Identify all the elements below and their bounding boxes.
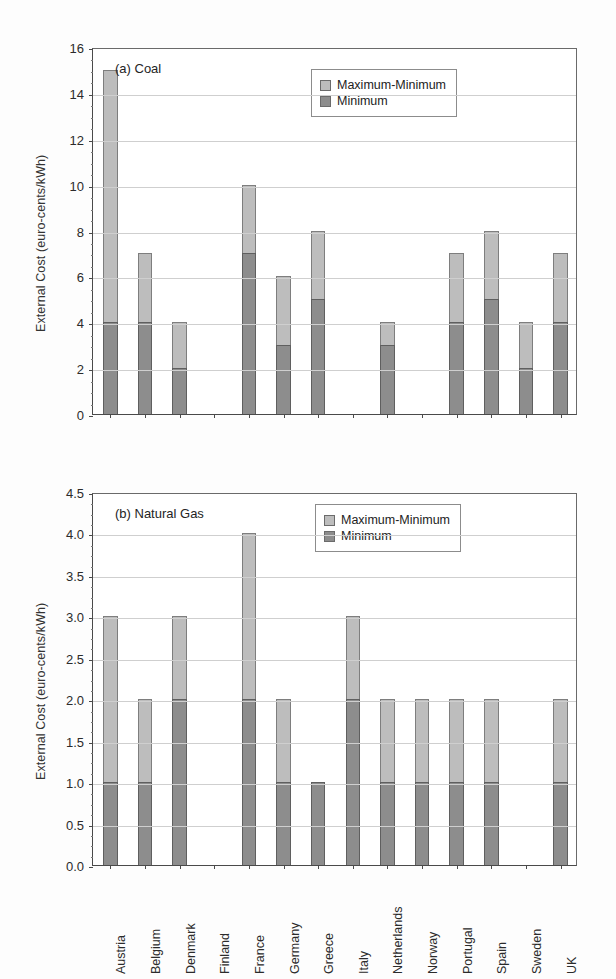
x-axis-label-norway: Norway — [426, 932, 440, 974]
bar-portugal — [449, 699, 464, 865]
x-axis-tick — [526, 865, 527, 869]
bar-segment-minimum — [242, 699, 257, 865]
bar-france — [242, 185, 257, 414]
legend-swatch-maximum-minimum-icon — [324, 515, 335, 526]
bar-segment-maximum-minimum — [380, 699, 395, 782]
bar-segment-minimum — [380, 345, 395, 414]
y-axis-tick — [89, 535, 93, 536]
y-axis-minor-tick — [91, 164, 94, 165]
bar-segment-maximum-minimum — [276, 276, 291, 345]
x-axis-tick — [110, 414, 111, 418]
x-axis-label-denmark: Denmark — [184, 923, 198, 974]
x-axis-tick — [180, 414, 181, 418]
bar-segment-maximum-minimum — [415, 699, 430, 782]
y-axis-minor-tick — [91, 567, 94, 568]
x-axis-tick — [318, 865, 319, 869]
x-axis-tick — [318, 414, 319, 418]
bar-segment-minimum — [449, 782, 464, 865]
y-axis-tick-labels-natural-gas: 0.00.51.01.52.02.53.03.54.04.5 — [50, 493, 84, 866]
bar-segment-minimum — [346, 699, 361, 865]
bar-greece — [311, 231, 326, 415]
bar-segment-maximum-minimum — [346, 616, 361, 699]
y-axis-tick-label: 1.0 — [66, 777, 84, 790]
legend-entry-minimum: Minimum — [320, 94, 446, 108]
x-axis-label-france: France — [253, 935, 267, 974]
y-axis-minor-tick — [91, 255, 94, 256]
bar-segment-maximum-minimum — [172, 616, 187, 699]
bar-spain — [484, 231, 499, 415]
gridline — [93, 577, 576, 578]
x-axis-label-austria: Austria — [114, 935, 128, 974]
y-axis-tick — [89, 701, 93, 702]
x-axis-label-portugal: Portugal — [461, 927, 475, 974]
bar-greece — [311, 782, 326, 865]
y-axis-tick-label: 2.0 — [66, 694, 84, 707]
x-axis-tick — [387, 414, 388, 418]
y-axis-minor-tick — [91, 504, 94, 505]
y-axis-tick-label: 6 — [77, 271, 84, 284]
y-axis-minor-tick — [91, 805, 94, 806]
gridline — [93, 826, 576, 827]
bar-segment-minimum — [103, 782, 118, 865]
y-axis-minor-tick — [91, 732, 94, 733]
bar-segment-minimum — [484, 299, 499, 414]
x-axis-tick — [249, 414, 250, 418]
gridline — [93, 660, 576, 661]
bar-denmark — [172, 322, 187, 414]
y-axis-tick — [89, 660, 93, 661]
x-axis-category-labels: AustriaBelgiumDenmarkFinlandFranceGerman… — [92, 874, 577, 979]
bar-segment-maximum-minimum — [449, 699, 464, 782]
gridline — [93, 233, 576, 234]
bar-france — [242, 533, 257, 865]
bar-segment-minimum — [380, 782, 395, 865]
x-axis-tick — [249, 865, 250, 869]
chart-panel-coal: External Cost (euro-cents/kWh) 024681012… — [0, 30, 616, 440]
bar-segment-maximum-minimum — [103, 70, 118, 322]
legend-label-minimum: Minimum — [337, 94, 388, 108]
y-axis-minor-tick — [91, 313, 94, 314]
y-axis-minor-tick — [91, 556, 94, 557]
x-axis-tick — [214, 865, 215, 869]
plot-area-natural-gas: (b) Natural Gas Maximum-Minimum Minimum — [92, 493, 577, 866]
y-axis-tick — [89, 49, 93, 50]
bar-segment-maximum-minimum — [553, 699, 568, 782]
y-axis-tick-label: 10 — [70, 179, 84, 192]
bar-netherlands — [380, 699, 395, 865]
x-axis-tick — [387, 865, 388, 869]
y-axis-tick — [89, 324, 93, 325]
bar-segment-minimum — [311, 299, 326, 414]
x-axis-label-sweden: Sweden — [530, 929, 544, 974]
x-axis-tick — [145, 865, 146, 869]
bar-segment-maximum-minimum — [484, 699, 499, 782]
bar-segment-minimum — [172, 699, 187, 865]
x-axis-label-finland: Finland — [218, 933, 232, 974]
y-axis-minor-tick — [91, 301, 94, 302]
y-axis-tick-label: 4 — [77, 317, 84, 330]
bar-segment-maximum-minimum — [380, 322, 395, 345]
bar-segment-minimum — [138, 782, 153, 865]
bar-austria — [103, 616, 118, 865]
y-axis-tick — [89, 416, 93, 417]
y-axis-minor-tick — [91, 72, 94, 73]
x-axis-label-spain: Spain — [495, 942, 509, 974]
bar-segment-maximum-minimum — [553, 253, 568, 322]
gridline — [93, 278, 576, 279]
y-axis-minor-tick — [91, 152, 94, 153]
y-axis-tick — [89, 577, 93, 578]
y-axis-minor-tick — [91, 359, 94, 360]
y-axis-minor-tick — [91, 846, 94, 847]
y-axis-tick-label: 8 — [77, 225, 84, 238]
y-axis-minor-tick — [91, 681, 94, 682]
y-axis-minor-tick — [91, 267, 94, 268]
y-axis-minor-tick — [91, 221, 94, 222]
legend-swatch-minimum-icon — [320, 96, 331, 107]
x-axis-tick — [457, 865, 458, 869]
y-axis-tick-label: 16 — [70, 42, 84, 55]
gridline — [93, 324, 576, 325]
y-axis-minor-tick — [91, 290, 94, 291]
y-axis-tick-label: 4.0 — [66, 528, 84, 541]
y-axis-minor-tick — [91, 815, 94, 816]
x-axis-label-netherlands: Netherlands — [391, 907, 405, 974]
y-axis-minor-tick — [91, 393, 94, 394]
y-axis-tick — [89, 370, 93, 371]
